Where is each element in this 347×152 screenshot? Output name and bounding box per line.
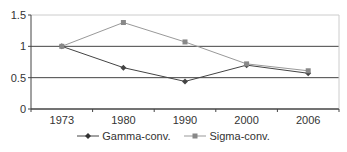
chart-legend: Gamma-conv. Sigma-conv. [0, 130, 347, 142]
line-chart: 00.511.519731980199020002006 [0, 0, 347, 130]
diamond-marker [120, 65, 126, 71]
legend-label-sigma: Sigma-conv. [209, 130, 269, 142]
x-tick-label: 1990 [173, 114, 197, 126]
y-tick-label: 0 [20, 103, 26, 115]
square-marker-icon [184, 132, 206, 140]
square-marker [59, 44, 64, 49]
y-tick-label: 1 [20, 40, 26, 52]
y-tick-label: 1.5 [11, 9, 26, 21]
x-tick-label: 2000 [234, 114, 258, 126]
square-marker [183, 39, 188, 44]
x-tick-label: 2006 [296, 114, 320, 126]
diamond-marker [182, 78, 188, 84]
legend-item-gamma: Gamma-conv. [77, 130, 170, 142]
square-marker [244, 61, 249, 66]
x-tick-label: 1980 [111, 114, 135, 126]
square-marker [306, 68, 311, 73]
legend-label-gamma: Gamma-conv. [102, 130, 170, 142]
legend-item-sigma: Sigma-conv. [184, 130, 269, 142]
y-tick-label: 0.5 [11, 72, 26, 84]
diamond-marker-icon [77, 132, 99, 140]
x-tick-label: 1973 [50, 114, 74, 126]
series-line [62, 46, 308, 81]
square-marker [121, 20, 126, 25]
